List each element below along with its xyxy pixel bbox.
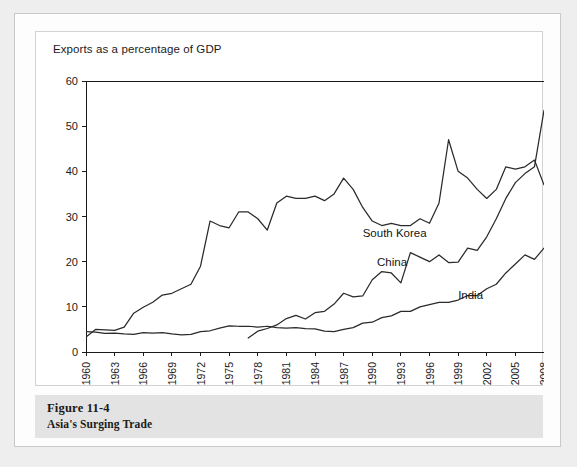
y-axis-tick-label: 50 [66, 120, 78, 132]
y-axis-tick-label: 60 [66, 75, 78, 87]
y-axis-tick-label: 30 [66, 211, 78, 223]
x-axis-tick-label: 1972 [195, 362, 207, 386]
x-axis-tick-label: 2002 [481, 362, 493, 386]
series-group [86, 110, 544, 338]
x-axis-tick-label: 1987 [338, 362, 350, 386]
series-line-south-korea [86, 140, 544, 337]
y-axis-tick-label: 20 [66, 256, 78, 268]
series-label-china: China [377, 256, 408, 268]
x-axis-tick-label: 1978 [252, 362, 264, 386]
figure-card: Exports as a percentage of GDP 010203040… [14, 13, 561, 447]
x-axis-tick-label: 1966 [137, 362, 149, 386]
chart-panel: Exports as a percentage of GDP 010203040… [35, 31, 543, 386]
x-axis-tick-label: 1999 [452, 362, 464, 386]
x-axis-tick-label: 1996 [424, 362, 436, 386]
x-axis-tick-label: 1963 [109, 362, 121, 386]
figure-caption-band: Figure 11-4 Asia's Surging Trade [35, 395, 543, 438]
x-axis-tick-label: 1975 [223, 362, 235, 386]
x-axis-tick-label: 1969 [166, 362, 178, 386]
y-axis-tick-label: 10 [66, 301, 78, 313]
page-background: Exports as a percentage of GDP 010203040… [0, 0, 577, 467]
y-axis-tick-label: 0 [72, 346, 78, 358]
x-axis-tick-label: 2008 [538, 362, 544, 386]
x-axis-tick-label: 1960 [80, 362, 92, 386]
x-axis-tick-label: 1981 [280, 362, 292, 386]
x-axis-tick-label: 1993 [395, 362, 407, 386]
line-chart: 0102030405060196019631966196919721975197… [36, 32, 544, 387]
figure-title: Asia's Surging Trade [47, 418, 152, 430]
series-label-south-korea: South Korea [363, 227, 428, 239]
figure-number: Figure 11-4 [47, 401, 110, 416]
x-axis-tick-label: 1990 [366, 362, 378, 386]
plot-frame [86, 81, 544, 352]
x-axis-tick-label: 2005 [509, 362, 521, 386]
y-axis-tick-label: 40 [66, 165, 78, 177]
series-label-india: India [458, 289, 484, 301]
x-axis-tick-label: 1984 [309, 362, 321, 386]
